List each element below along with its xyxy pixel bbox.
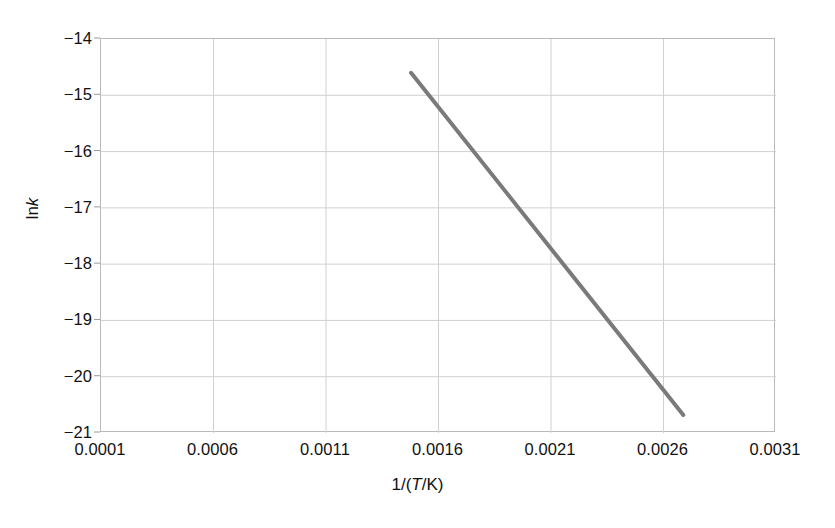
x-tick-label: 0.0026 [637,441,688,458]
arrhenius-line [411,73,683,415]
x-tick-label: 0.0021 [524,441,575,458]
x-tick-label: 0.0016 [412,441,463,458]
y-tick-label: −21 [64,424,92,441]
y-tick-label: −18 [64,255,92,272]
x-axis-tick-labels: 0.00010.00060.00110.00160.00210.00260.00… [0,441,835,467]
y-tick-label: −15 [64,86,92,103]
x-tick-label: 0.0006 [187,441,238,458]
x-tick-label: 0.0011 [300,441,350,458]
y-tick-label: −19 [64,311,92,328]
y-tick-label: −17 [64,199,92,216]
data-series-layer [101,39,776,433]
y-tick-label: −14 [64,30,92,47]
x-tick-label: 0.0031 [749,441,800,458]
y-tick-label: −20 [64,368,92,385]
y-tick-label: −16 [64,143,92,160]
x-axis-title: 1/(T/K) [0,476,835,493]
x-tick-label: 0.0001 [74,441,125,458]
y-axis-title: lnk [24,174,41,244]
arrhenius-plot-figure: −14−15−16−17−18−19−20−21 0.00010.00060.0… [0,0,835,528]
plot-area [100,38,775,432]
